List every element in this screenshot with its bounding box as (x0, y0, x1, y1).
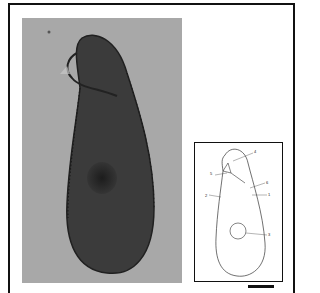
label-1: 1 (268, 192, 270, 197)
label-6: 6 (266, 180, 268, 185)
label-4: 4 (254, 149, 256, 154)
ciliate-micrograph (22, 18, 182, 283)
ciliate-line-drawing (195, 143, 281, 280)
label-2: 2 (205, 193, 207, 198)
line-drawing-inset: 4 5 6 1 2 3 (194, 142, 283, 282)
micrograph-photo (22, 18, 182, 283)
label-5: 5 (210, 171, 212, 176)
scale-bar (248, 285, 274, 288)
label-3: 3 (268, 232, 270, 237)
